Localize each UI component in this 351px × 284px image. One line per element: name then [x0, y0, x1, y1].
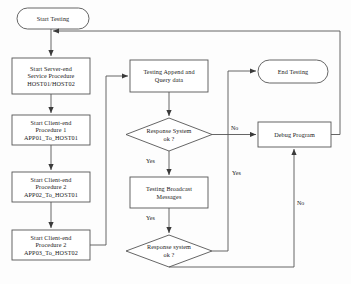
edge-label-decision1-yes: Yes	[146, 158, 155, 165]
edge-decision2-yes-to-end	[212, 71, 256, 251]
node-append-shape	[130, 60, 208, 92]
node-start-shape	[17, 8, 89, 29]
node-client3-shape	[12, 230, 90, 260]
node-broadcast-shape	[130, 177, 208, 208]
edge-label-broadcast-yes: Yes	[146, 215, 155, 222]
node-decision2-shape	[126, 235, 212, 267]
node-server-shape	[12, 58, 90, 94]
node-end-shape	[258, 60, 328, 83]
edge-client3-to-append	[90, 76, 128, 245]
node-decision1-shape	[126, 118, 212, 151]
edge-label-decision2-no: No	[297, 200, 304, 207]
flowchart-edges-and-shapes	[0, 0, 351, 284]
edge-label-decision2-yes: Yes	[232, 170, 241, 177]
edge-label-decision1-no: No	[231, 125, 238, 132]
node-client2-shape	[12, 172, 90, 202]
flowchart-canvas: Start Testing Start Server-end Service P…	[0, 0, 351, 284]
node-debug-shape	[258, 122, 331, 147]
node-client1-shape	[12, 115, 90, 145]
